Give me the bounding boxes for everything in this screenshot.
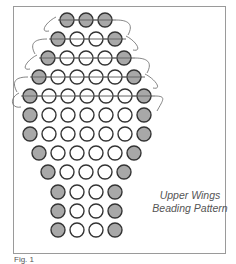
bead-row-7 [23, 127, 151, 141]
white-bead [70, 146, 84, 160]
bead-row-12 [51, 223, 122, 237]
white-bead [70, 223, 84, 237]
white-bead [60, 165, 74, 179]
white-bead [118, 127, 132, 141]
pattern-caption: Upper Wings Beading Pattern [144, 189, 236, 215]
bead-row-11 [51, 204, 122, 218]
gray-bead [41, 165, 55, 179]
gray-bead [108, 185, 122, 199]
gray-bead [108, 204, 122, 218]
white-bead [61, 108, 75, 122]
bead-row-9 [41, 165, 131, 179]
white-bead [89, 223, 103, 237]
bead-row-6 [23, 108, 151, 122]
white-bead [108, 146, 122, 160]
bead-row-2 [51, 32, 122, 46]
bead-row-1 [60, 13, 112, 27]
white-bead [80, 108, 94, 122]
white-bead [99, 127, 113, 141]
white-bead [70, 204, 84, 218]
white-bead [89, 185, 103, 199]
figure-label: Fig. 1 [14, 255, 34, 264]
white-bead [118, 108, 132, 122]
bead-row-10 [51, 185, 122, 199]
white-bead [98, 165, 112, 179]
gray-bead [51, 223, 65, 237]
caption-line-1: Upper Wings [144, 189, 236, 202]
bead-row-3 [41, 51, 131, 65]
white-bead [99, 108, 113, 122]
white-bead [79, 165, 93, 179]
white-bead [42, 127, 56, 141]
gray-bead [23, 108, 37, 122]
gray-bead [137, 127, 151, 141]
white-bead [61, 127, 75, 141]
white-bead [42, 108, 56, 122]
gray-bead [127, 146, 141, 160]
white-bead [80, 127, 94, 141]
gray-bead [51, 204, 65, 218]
gray-bead [117, 165, 131, 179]
gray-bead [23, 127, 37, 141]
caption-line-2: Beading Pattern [144, 202, 236, 215]
gray-bead [51, 185, 65, 199]
bead-row-5 [23, 89, 151, 103]
bead-row-8 [32, 146, 141, 160]
gray-bead [108, 223, 122, 237]
gray-bead [137, 108, 151, 122]
white-bead [89, 204, 103, 218]
white-bead [70, 185, 84, 199]
white-bead [51, 146, 65, 160]
white-bead [89, 146, 103, 160]
bead-row-4 [32, 70, 141, 84]
gray-bead [32, 146, 46, 160]
